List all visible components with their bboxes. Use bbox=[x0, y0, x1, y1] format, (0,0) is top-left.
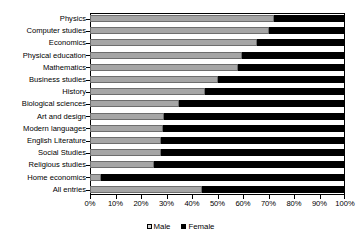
bar-row bbox=[90, 76, 345, 83]
legend-swatch-icon bbox=[147, 224, 152, 229]
bar-segment-female bbox=[238, 64, 345, 71]
bar-segment-female bbox=[274, 15, 345, 22]
category-label: Economics bbox=[0, 39, 86, 46]
chart-legend: MaleFemale bbox=[0, 222, 361, 231]
bars-container bbox=[90, 13, 345, 195]
bar-segment-male bbox=[90, 88, 205, 95]
bar-row bbox=[90, 174, 345, 181]
category-label: Physics bbox=[0, 15, 86, 22]
bar-row bbox=[90, 88, 345, 95]
legend-item[interactable]: Male bbox=[147, 222, 171, 231]
bar-segment-female bbox=[242, 52, 345, 59]
bar-segment-female bbox=[163, 125, 345, 132]
legend-item[interactable]: Female bbox=[181, 222, 214, 231]
bar-row bbox=[90, 125, 345, 132]
bar-row bbox=[90, 161, 345, 168]
bar-segment-male bbox=[90, 100, 179, 107]
bar-row bbox=[90, 15, 345, 22]
category-label: Art and design bbox=[0, 113, 86, 120]
bar-segment-female bbox=[161, 149, 345, 156]
category-axis-labels: PhysicsComputer studiesEconomicsPhysical… bbox=[0, 13, 86, 195]
bar-segment-male bbox=[90, 15, 274, 22]
category-label: Business studies bbox=[0, 76, 86, 83]
legend-swatch-icon bbox=[181, 224, 186, 229]
value-tick-label: 50% bbox=[210, 199, 225, 209]
value-tick-label: 60% bbox=[235, 199, 250, 209]
value-tick-label: 40% bbox=[184, 199, 199, 209]
stacked-bar-chart: PhysicsComputer studiesEconomicsPhysical… bbox=[0, 0, 361, 243]
bar-row bbox=[90, 113, 345, 120]
bar-segment-female bbox=[269, 27, 346, 34]
value-tick-label: 10% bbox=[108, 199, 123, 209]
bar-row bbox=[90, 137, 345, 144]
bar-row bbox=[90, 64, 345, 71]
bar-segment-male bbox=[90, 174, 101, 181]
bar-segment-male bbox=[90, 52, 242, 59]
bar-segment-female bbox=[205, 88, 345, 95]
legend-label: Male bbox=[154, 222, 171, 231]
bar-row bbox=[90, 27, 345, 34]
bar-segment-male bbox=[90, 27, 269, 34]
bar-segment-female bbox=[202, 186, 345, 193]
value-tick-label: 70% bbox=[261, 199, 276, 209]
bar-segment-male bbox=[90, 137, 161, 144]
bar-segment-male bbox=[90, 186, 202, 193]
category-label: Mathematics bbox=[0, 64, 86, 71]
bar-row bbox=[90, 39, 345, 46]
bar-segment-female bbox=[257, 39, 345, 46]
bar-segment-male bbox=[90, 161, 154, 168]
bar-segment-male bbox=[90, 149, 161, 156]
bar-row bbox=[90, 149, 345, 156]
value-tick-label: 100% bbox=[335, 199, 354, 209]
bar-segment-female bbox=[179, 100, 345, 107]
bar-row bbox=[90, 52, 345, 59]
category-label: Social Studies bbox=[0, 149, 86, 156]
bar-row bbox=[90, 186, 345, 193]
value-axis-labels: 0%10%20%30%40%50%60%70%80%90%100% bbox=[0, 199, 361, 211]
bar-segment-female bbox=[164, 113, 345, 120]
value-tick-label: 80% bbox=[286, 199, 301, 209]
bar-segment-male bbox=[90, 76, 218, 83]
category-label: Modern languages bbox=[0, 125, 86, 132]
value-tick-label: 30% bbox=[159, 199, 174, 209]
category-label: All entries bbox=[0, 186, 86, 193]
category-label: Computer studies bbox=[0, 27, 86, 34]
category-label: History bbox=[0, 88, 86, 95]
category-label: English Literature bbox=[0, 137, 86, 144]
bar-segment-male bbox=[90, 125, 163, 132]
value-tick-label: 0% bbox=[85, 199, 96, 209]
bar-segment-male bbox=[90, 39, 257, 46]
category-label: Home economics bbox=[0, 174, 86, 181]
legend-label: Female bbox=[188, 222, 214, 231]
value-tick-label: 20% bbox=[133, 199, 148, 209]
value-tick-label: 90% bbox=[312, 199, 327, 209]
bar-segment-male bbox=[90, 113, 164, 120]
bar-segment-female bbox=[161, 137, 345, 144]
bar-row bbox=[90, 100, 345, 107]
category-label: Physical education bbox=[0, 52, 86, 59]
bar-segment-female bbox=[154, 161, 345, 168]
category-label: Biological sciences bbox=[0, 100, 86, 107]
bar-segment-female bbox=[101, 174, 345, 181]
category-label: Religious studies bbox=[0, 161, 86, 168]
bar-segment-female bbox=[218, 76, 346, 83]
bar-segment-male bbox=[90, 64, 238, 71]
